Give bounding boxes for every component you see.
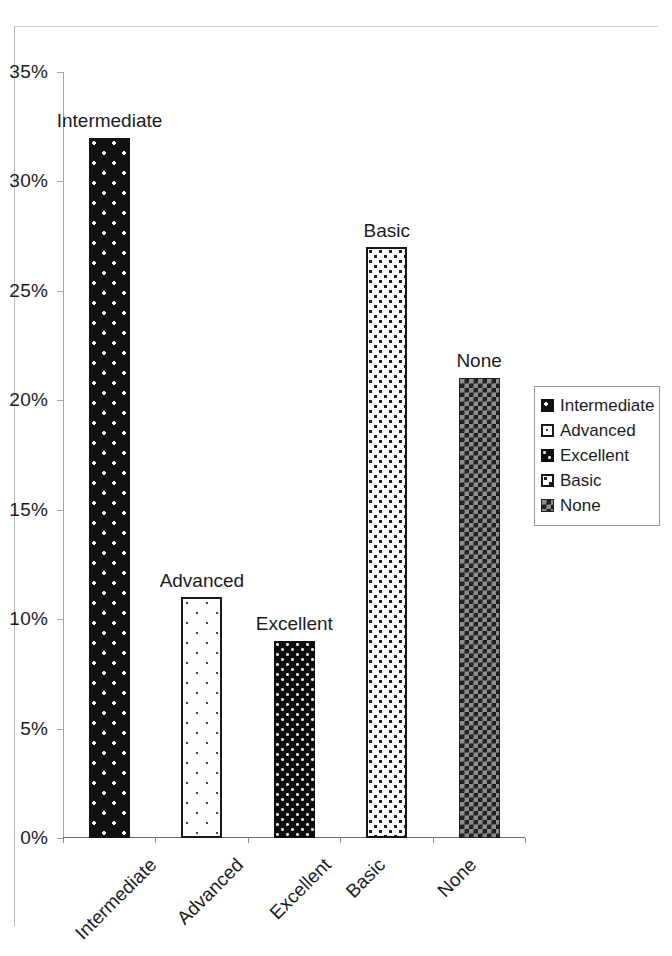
legend-item-basic[interactable]: Basic (541, 468, 651, 493)
legend-swatch-intermediate-icon (541, 399, 554, 412)
plot-area: 35% 30% 25% 20% 15% 10% 5% 0% (63, 72, 525, 838)
legend-swatch-excellent-icon (541, 449, 554, 462)
bar-value-label: Excellent (256, 613, 333, 635)
legend-label: Advanced (560, 422, 636, 439)
x-tick (525, 838, 526, 843)
y-tick: 20% (57, 400, 63, 401)
y-axis-line (63, 72, 64, 838)
bar-value-label: None (456, 350, 501, 372)
y-tick: 25% (57, 291, 63, 292)
y-tick: 15% (57, 510, 63, 511)
legend-label: Basic (560, 472, 602, 489)
y-tick-label: 10% (9, 608, 48, 630)
y-tick-label: 5% (20, 718, 48, 740)
legend-label: None (560, 497, 601, 514)
y-tick-label: 35% (9, 61, 48, 83)
legend-label: Excellent (560, 447, 629, 464)
bar-excellent[interactable]: Excellent (274, 641, 315, 838)
legend-swatch-advanced-icon (541, 424, 554, 437)
legend-item-advanced[interactable]: Advanced (541, 418, 651, 443)
y-tick: 35% (57, 72, 63, 73)
legend-item-excellent[interactable]: Excellent (541, 443, 651, 468)
legend-swatch-none-icon (541, 499, 554, 512)
bar-advanced[interactable]: Advanced (181, 597, 222, 838)
y-tick: 10% (57, 619, 63, 620)
bar-chart: 35% 30% 25% 20% 15% 10% 5% 0% (0, 0, 672, 956)
y-tick-label: 20% (9, 389, 48, 411)
legend-swatch-basic-icon (541, 474, 554, 487)
bar-value-label: Advanced (160, 570, 245, 592)
x-tick (155, 838, 156, 843)
bar-basic[interactable]: Basic (366, 247, 407, 838)
bar-intermediate[interactable]: Intermediate (89, 138, 130, 838)
legend-item-none[interactable]: None (541, 493, 651, 518)
y-tick: 30% (57, 181, 63, 182)
legend-label: Intermediate (560, 397, 655, 414)
x-tick (248, 838, 249, 843)
y-tick-label: 0% (20, 827, 48, 849)
x-tick (63, 838, 64, 843)
chart-legend: Intermediate Advanced Excellent Basic No… (534, 386, 660, 526)
x-tick (433, 838, 434, 843)
y-tick-label: 25% (9, 280, 48, 302)
y-tick-label: 30% (9, 170, 48, 192)
bar-none[interactable]: None (459, 378, 500, 838)
bar-value-label: Intermediate (57, 110, 163, 132)
legend-item-intermediate[interactable]: Intermediate (541, 393, 651, 418)
y-tick-label: 15% (9, 499, 48, 521)
y-tick: 5% (57, 729, 63, 730)
bar-value-label: Basic (363, 220, 409, 242)
x-tick (340, 838, 341, 843)
